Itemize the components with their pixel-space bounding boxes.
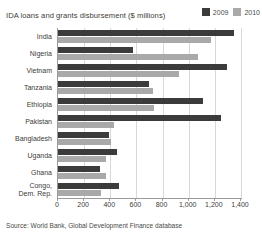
bar-2010 [58, 71, 179, 77]
bar-2010 [58, 156, 106, 162]
bar-2010 [58, 54, 198, 60]
bar-group [58, 28, 241, 45]
bar-group [58, 62, 241, 79]
y-axis-category: Vietnam [0, 62, 55, 79]
bar-2010 [58, 139, 111, 145]
y-axis-category-label: Uganda [27, 152, 52, 160]
bar-2009 [58, 47, 133, 53]
bar-2009 [58, 149, 117, 155]
bar-group [58, 45, 241, 62]
y-axis-category: Tanzania [0, 79, 55, 96]
x-axis-tick-label: 400 [103, 201, 115, 208]
legend-label-2009: 2009 [213, 9, 229, 16]
y-axis-category-label: Pakistan [25, 118, 52, 126]
bar-group [58, 130, 241, 147]
bar-2009 [58, 81, 149, 87]
y-axis-category: Congo, Dem. Rep. [0, 181, 55, 198]
legend-swatch-icon-2009 [202, 8, 210, 16]
x-axis-tick-label: 1,200 [205, 201, 223, 208]
bar-rows [58, 28, 241, 198]
bar-group [58, 181, 241, 198]
bar-group [58, 164, 241, 181]
bar-2010 [58, 173, 106, 179]
y-axis-category: Bangladesh [0, 130, 55, 147]
x-axis-tick-label: 800 [156, 201, 168, 208]
legend-label-2010: 2010 [244, 9, 260, 16]
y-axis-category-label: Ethiopia [27, 101, 52, 109]
y-axis-category: Ghana [0, 164, 55, 181]
bar-2009 [58, 98, 203, 104]
bar-2010 [58, 105, 154, 111]
legend-item-2010: 2010 [233, 8, 260, 16]
y-axis-category-label: Tanzania [24, 84, 52, 92]
y-axis-category: Pakistan [0, 113, 55, 130]
x-axis-tick-label: 600 [130, 201, 142, 208]
bar-group [58, 147, 241, 164]
x-axis-tick-label: 0 [55, 201, 59, 208]
bar-2009 [58, 132, 109, 138]
chart-title: IDA loans and grants disbursement ($ mil… [6, 11, 165, 20]
y-axis-category-label: Bangladesh [15, 135, 52, 143]
bar-2010 [58, 190, 101, 196]
bar-2009 [58, 166, 100, 172]
x-axis-ticks: 02004006008001,0001,2001,400 [57, 198, 240, 210]
bar-2010 [58, 88, 153, 94]
bar-group [58, 79, 241, 96]
y-axis-category: Uganda [0, 147, 55, 164]
y-axis-category-label: Nigeria [30, 50, 52, 58]
bar-2009 [58, 183, 119, 189]
bar-2010 [58, 37, 211, 43]
gridline [241, 28, 242, 198]
y-axis-category: Ethiopia [0, 96, 55, 113]
legend-swatch-icon-2010 [233, 8, 241, 16]
y-axis-category: India [0, 28, 55, 45]
bar-2009 [58, 64, 227, 70]
legend-item-2009: 2009 [202, 8, 229, 16]
x-axis-tick-label: 200 [77, 201, 89, 208]
plot-area [57, 28, 241, 198]
y-axis-category-label: Congo, Dem. Rep. [19, 182, 52, 197]
bar-2009 [58, 30, 234, 36]
x-axis-tick-label: 1,400 [231, 201, 249, 208]
source-note: Source: World Bank, Global Development F… [6, 222, 182, 229]
bar-group [58, 96, 241, 113]
y-axis-category-label: India [37, 33, 52, 41]
y-axis-category-labels: IndiaNigeriaVietnamTanzaniaEthiopiaPakis… [0, 28, 55, 198]
y-axis-category-label: Vietnam [26, 67, 52, 75]
y-axis-category-label: Ghana [31, 169, 52, 177]
x-axis-tick-label: 1,000 [179, 201, 197, 208]
bar-group [58, 113, 241, 130]
bar-2009 [58, 115, 221, 121]
bar-2010 [58, 122, 114, 128]
y-axis-category: Nigeria [0, 45, 55, 62]
chart-container: IDA loans and grants disbursement ($ mil… [0, 0, 262, 234]
chart-legend: 2009 2010 [202, 8, 260, 16]
